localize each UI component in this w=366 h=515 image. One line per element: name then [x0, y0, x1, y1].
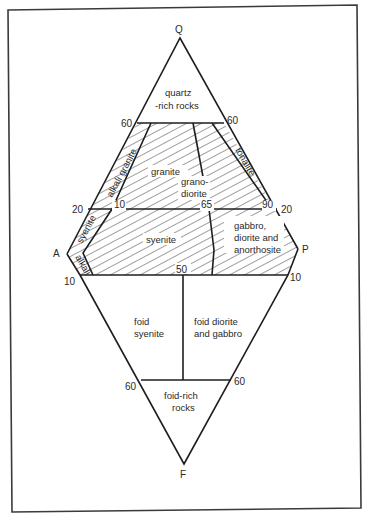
field-foid-rich-2: rocks	[172, 402, 195, 413]
field-foid-syenite-1: foid	[134, 316, 149, 327]
tick-inner-90: 90	[262, 199, 274, 210]
field-syenite: syenite	[146, 234, 176, 245]
field-gabbro-3: anorthosite	[234, 244, 281, 255]
vertex-q: Q	[175, 24, 183, 35]
tick-f60-right: 60	[234, 376, 246, 387]
tick-inner-50: 50	[176, 264, 188, 275]
field-granodiorite-1: grano-	[181, 176, 208, 187]
field-quartz-rich-2: -rich rocks	[155, 100, 199, 111]
vertex-p: P	[302, 244, 309, 255]
field-foid-syenite-2: syenite	[134, 328, 164, 339]
field-gabbro-2: diorite and	[234, 232, 278, 243]
tick-f60-left: 60	[125, 381, 137, 392]
tick-q60-right: 60	[227, 115, 239, 126]
vertex-a: A	[53, 248, 60, 259]
tick-inner-65: 65	[201, 199, 213, 210]
tick-q20-right: 20	[281, 204, 293, 215]
field-foid-rich-1: foid-rich	[164, 390, 198, 401]
field-granodiorite-2: diorite	[181, 188, 207, 199]
tick-p10-right: 10	[290, 272, 302, 283]
field-quartz-rich-1: quartz	[165, 87, 192, 98]
tick-a10-left: 10	[64, 276, 76, 287]
field-foid-diorite-2: and gabbro	[194, 328, 242, 339]
tick-q60-left: 60	[121, 118, 133, 129]
field-gabbro-1: gabbro,	[234, 220, 266, 231]
field-foid-diorite-1: foid diorite	[194, 316, 238, 327]
tick-q20-left: 20	[72, 204, 84, 215]
field-granite: granite	[151, 166, 180, 177]
tick-inner-10: 10	[114, 199, 126, 210]
qapf-diagram: Q A P F 60 60 20 20 10 10 60 60 10 65 90…	[0, 0, 366, 515]
vertex-f: F	[180, 469, 186, 480]
